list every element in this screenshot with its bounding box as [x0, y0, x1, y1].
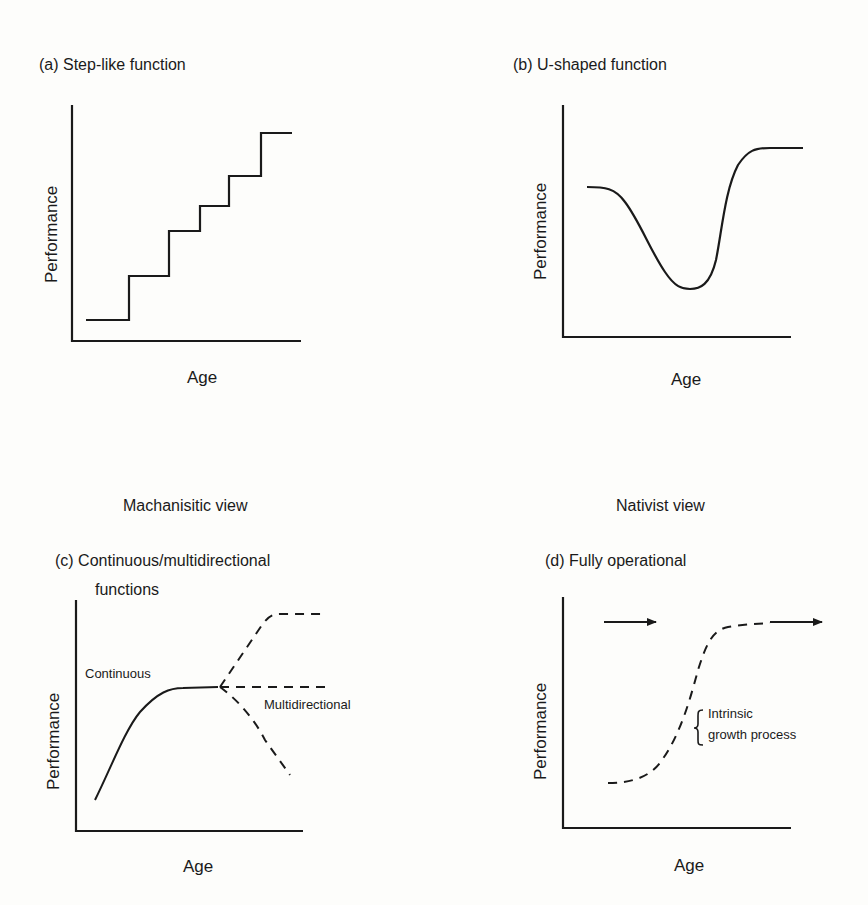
panel-c-title-line2: functions — [95, 581, 159, 599]
panel-b-title: (b) U-shaped function — [513, 56, 667, 74]
panel-c-axes — [76, 600, 303, 831]
panel-d-ylabel: Performance — [531, 683, 551, 780]
panel-d-growth-curve — [608, 623, 770, 783]
panel-c-continuous-label: Continuous — [85, 666, 151, 681]
panel-a-ylabel: Performance — [42, 186, 62, 283]
panel-c-multidirectional-label: Multidirectional — [264, 697, 351, 712]
panel-d-xlabel: Age — [674, 856, 704, 876]
panel-c-title-line1: (c) Continuous/multidirectional — [55, 552, 270, 570]
panel-d-annotation-line1: Intrinsic — [708, 706, 753, 721]
panel-d-brace-icon — [694, 710, 703, 745]
panel-a-plot — [72, 105, 301, 341]
panel-a-axes — [72, 105, 301, 341]
panel-c-plot — [76, 600, 327, 831]
panel-b-xlabel: Age — [671, 370, 701, 390]
panel-c-continuous-curve — [95, 687, 218, 800]
panel-d-view-heading: Nativist view — [616, 497, 705, 515]
panel-c-xlabel: Age — [183, 857, 213, 877]
panel-d-title: (d) Fully operational — [545, 552, 686, 570]
figure-canvas — [0, 0, 868, 905]
panel-c-view-heading: Machanisitic view — [123, 497, 247, 515]
panel-d-plot — [563, 597, 822, 828]
panel-a-step-curve — [86, 133, 292, 320]
panel-b-plot — [563, 105, 803, 337]
panel-d-annotation-line2: growth process — [708, 727, 796, 742]
panel-b-u-curve — [587, 148, 803, 289]
panel-a-xlabel: Age — [187, 368, 217, 388]
panel-a-title: (a) Step-like function — [39, 56, 186, 74]
panel-d-axes — [563, 597, 791, 828]
panel-b-ylabel: Performance — [531, 183, 551, 280]
panel-c-branch-up — [220, 614, 323, 687]
panel-c-ylabel: Performance — [44, 693, 64, 790]
panel-b-axes — [563, 105, 791, 337]
